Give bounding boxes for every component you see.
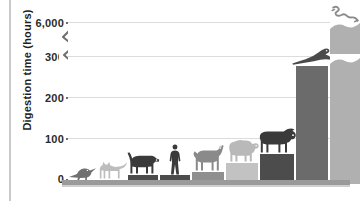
human-icon (167, 144, 183, 175)
sloth-icon (330, 5, 360, 23)
dog-icon (126, 151, 160, 175)
y-tick-label-100: 100 (45, 134, 64, 145)
seal-icon (291, 48, 333, 66)
cow-icon (256, 127, 298, 154)
bar-sloth[interactable] (330, 23, 360, 184)
bar-sloth-lower-segment (330, 62, 360, 184)
y-axis-title: Digestion time (hours) (21, 0, 33, 145)
sheep-icon (224, 138, 260, 163)
y-tick-label-200: 200 (45, 93, 64, 104)
bar-break-wave (330, 54, 360, 66)
horse-icon (190, 144, 226, 172)
cat-icon (97, 160, 127, 180)
x-axis-shadow (62, 185, 350, 187)
bar-series (68, 18, 348, 184)
bar-seal[interactable] (296, 66, 328, 184)
bar-sloth-upper-segment (330, 27, 360, 54)
